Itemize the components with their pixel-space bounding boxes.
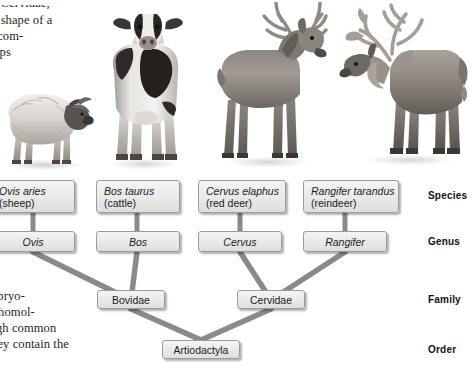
node-family-bovidae[interactable]: Bovidae xyxy=(97,290,165,309)
species-scientific-name: Ovis aries xyxy=(0,185,74,197)
node-genus-bos[interactable]: Bos xyxy=(96,231,180,252)
species-common-name: (cattle) xyxy=(104,197,179,209)
rank-label-genus: Genus xyxy=(428,236,460,247)
figure-canvas: among the Cervidae, having the shape of … xyxy=(0,0,476,367)
order-name: Artiodactyla xyxy=(174,344,229,356)
node-species-bos-taurus[interactable]: Bos taurus (cattle) xyxy=(96,180,180,213)
species-common-name: (red deer) xyxy=(206,197,285,209)
family-name: Cervidae xyxy=(250,294,292,306)
node-genus-ovis[interactable]: Ovis xyxy=(0,231,75,252)
rank-label-species: Species xyxy=(428,190,467,201)
node-order-artiodactyla[interactable]: Artiodactyla xyxy=(162,340,240,359)
rank-label-family: Family xyxy=(428,294,461,305)
edge-cervidae-artiodactyla xyxy=(201,309,271,340)
node-genus-rangifer[interactable]: Rangifer xyxy=(303,231,387,252)
genus-name: Ovis xyxy=(23,236,44,248)
rank-label-order: Order xyxy=(428,344,456,355)
species-common-name: (reindeer) xyxy=(311,197,398,209)
node-family-cervidae[interactable]: Cervidae xyxy=(237,290,305,309)
node-species-cervus-elaphus[interactable]: Cervus elaphus (red deer) xyxy=(198,180,286,213)
node-species-ovis-aries[interactable]: Ovis aries (sheep) xyxy=(0,180,75,213)
node-species-rangifer-tarandus[interactable]: Rangifer tarandus (reindeer) xyxy=(303,180,399,213)
species-scientific-name: Bos taurus xyxy=(104,185,179,197)
node-genus-cervus[interactable]: Cervus xyxy=(198,231,282,252)
genus-name: Bos xyxy=(129,236,147,248)
species-common-name: (sheep) xyxy=(0,197,74,209)
species-scientific-name: Cervus elaphus xyxy=(206,185,285,197)
genus-name: Rangifer xyxy=(325,236,365,248)
family-name: Bovidae xyxy=(112,294,150,306)
genus-name: Cervus xyxy=(223,236,256,248)
edge-bovidae-artiodactyla xyxy=(131,309,201,340)
species-scientific-name: Rangifer tarandus xyxy=(311,185,398,197)
